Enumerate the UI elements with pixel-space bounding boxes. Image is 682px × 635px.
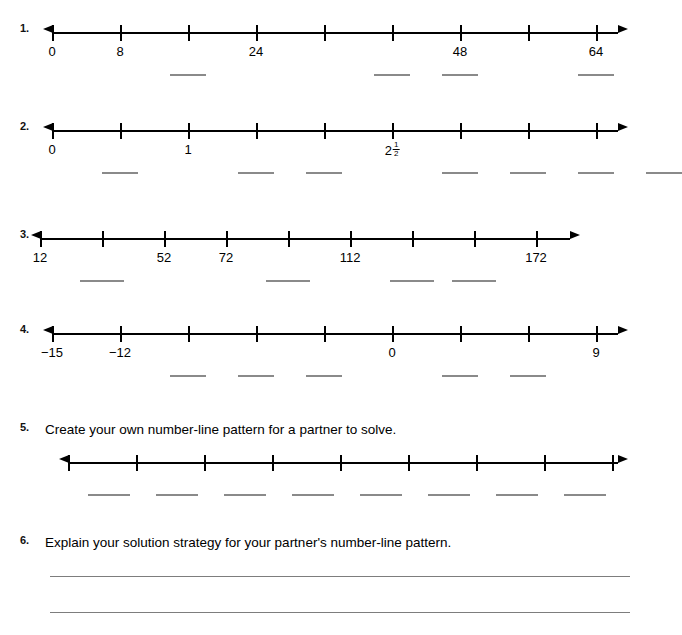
problem-5-number-line-axis[interactable] xyxy=(68,452,618,474)
answer-blank xyxy=(292,494,334,496)
tick-mark xyxy=(120,123,122,139)
tick-value-label: 0 xyxy=(388,345,395,361)
item-number-6: 6. xyxy=(20,534,44,546)
tick-value-label: 8 xyxy=(116,44,123,60)
problem-1-number-line[interactable] xyxy=(52,22,618,44)
tick-mark xyxy=(52,123,54,139)
tick-value-label: 0 xyxy=(48,44,55,60)
tick-value-label: 24 xyxy=(249,44,263,60)
tick-mark xyxy=(392,25,394,41)
item-number-1: 1. xyxy=(20,22,44,34)
tick-mark xyxy=(324,326,326,342)
tick-mark xyxy=(52,326,54,342)
writing-rule xyxy=(50,576,630,577)
arrow-right-icon xyxy=(618,326,628,334)
answer-blank xyxy=(360,494,402,496)
tick-mark xyxy=(536,231,538,247)
tick-mark xyxy=(476,455,478,471)
tick-mark xyxy=(408,455,410,471)
number-line-axis xyxy=(40,238,570,240)
tick-mark xyxy=(528,326,530,342)
answer-blank xyxy=(102,172,138,174)
answer-blank xyxy=(510,172,546,174)
answer-blank xyxy=(564,494,606,496)
tick-mark xyxy=(226,231,228,247)
tick-mark xyxy=(612,455,614,471)
tick-value-label: 9 xyxy=(592,345,599,361)
tick-value-label: 212 xyxy=(385,142,400,159)
tick-mark xyxy=(164,231,166,247)
tick-value-label: 1 xyxy=(184,142,191,158)
problem-5-prompt: Create your own number-line pattern for … xyxy=(45,421,396,439)
tick-mark xyxy=(460,123,462,139)
tick-mark xyxy=(340,455,342,471)
tick-value-label: 112 xyxy=(340,250,361,266)
tick-mark xyxy=(596,25,598,41)
answer-blank xyxy=(266,280,310,282)
tick-mark xyxy=(52,25,54,41)
problem-3-number-line[interactable] xyxy=(40,228,570,250)
item-number-5: 5. xyxy=(20,421,44,433)
number-line-axis xyxy=(52,32,618,34)
tick-mark xyxy=(272,455,274,471)
answer-blank xyxy=(578,172,614,174)
tick-value-label: −12 xyxy=(109,345,131,361)
tick-value-label: 172 xyxy=(525,250,547,266)
problem-6-prompt: Explain your solution strategy for your … xyxy=(45,534,451,552)
tick-mark xyxy=(188,123,190,139)
answer-blank xyxy=(442,375,478,377)
answer-blank xyxy=(374,74,410,76)
answer-blank xyxy=(80,280,124,282)
tick-value-label: 52 xyxy=(157,250,171,266)
answer-blank xyxy=(238,172,274,174)
tick-value-label: 48 xyxy=(453,44,467,60)
item-number-2: 2. xyxy=(20,120,44,132)
tick-mark xyxy=(120,25,122,41)
answer-blank xyxy=(238,375,274,377)
tick-mark xyxy=(204,455,206,471)
problem-4-number-line[interactable] xyxy=(52,323,618,345)
tick-mark xyxy=(528,123,530,139)
tick-mark xyxy=(256,326,258,342)
writing-rule xyxy=(50,612,630,613)
number-line-axis xyxy=(52,333,618,335)
tick-mark xyxy=(528,25,530,41)
tick-mark xyxy=(136,455,138,471)
answer-blank xyxy=(442,172,478,174)
arrow-right-icon xyxy=(570,231,580,239)
answer-blank xyxy=(306,172,342,174)
tick-value-label: 72 xyxy=(219,250,233,266)
answer-blank xyxy=(390,280,434,282)
answer-blank xyxy=(224,494,266,496)
tick-mark xyxy=(324,25,326,41)
arrow-right-icon xyxy=(618,25,628,33)
tick-mark xyxy=(288,231,290,247)
tick-mark xyxy=(392,123,394,139)
tick-mark xyxy=(102,231,104,247)
answer-blank xyxy=(170,375,206,377)
answer-blank xyxy=(442,74,478,76)
answer-blank xyxy=(88,494,130,496)
answer-blank xyxy=(452,280,496,282)
answer-blank xyxy=(496,494,538,496)
answer-blank xyxy=(646,172,682,174)
number-line-axis xyxy=(68,462,618,464)
answer-blank xyxy=(578,74,614,76)
answer-blank xyxy=(156,494,198,496)
tick-mark xyxy=(474,231,476,247)
tick-mark xyxy=(68,455,70,471)
tick-mark xyxy=(460,326,462,342)
tick-mark xyxy=(596,123,598,139)
problem-2-number-line[interactable] xyxy=(52,120,618,142)
number-line-axis xyxy=(52,130,618,132)
answer-blank xyxy=(510,375,546,377)
tick-mark xyxy=(544,455,546,471)
tick-mark xyxy=(40,231,42,247)
tick-mark xyxy=(412,231,414,247)
tick-value-label: −15 xyxy=(41,345,63,361)
arrow-right-icon xyxy=(618,455,628,463)
tick-mark xyxy=(256,123,258,139)
tick-mark xyxy=(350,231,352,247)
arrow-right-icon xyxy=(618,123,628,131)
